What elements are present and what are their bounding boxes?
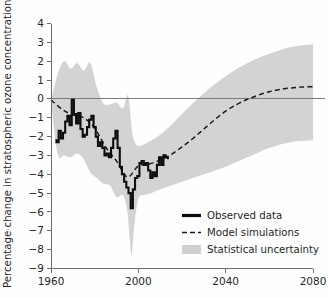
uncertainty-band (51, 44, 313, 255)
y-tick-label: −4 (29, 168, 45, 180)
ozone-line-chart: Percentage change in stratospheric ozone… (0, 0, 328, 298)
y-tick-label: −5 (29, 187, 44, 199)
y-tick-label: −2 (29, 130, 44, 142)
chart-figure: Percentage change in stratospheric ozone… (0, 0, 328, 298)
y-tick-label: −3 (29, 149, 44, 161)
y-tick-label: −9 (29, 262, 44, 274)
x-tick-marks (51, 269, 313, 273)
y-tick-label: −6 (29, 206, 45, 218)
legend-swatch-uncertainty (182, 245, 201, 254)
y-tick-labels: 43210−1−2−3−4−5−6−7−8−9 (29, 17, 45, 274)
x-tick-label: 2000 (125, 275, 152, 287)
uncertainty-band-group (51, 44, 313, 255)
legend-label-uncertainty: Statistical uncertainty (207, 244, 319, 255)
x-tick-label: 1960 (38, 275, 65, 287)
chart-legend: Observed data Model simulations Statisti… (182, 210, 319, 255)
y-tick-label: 2 (37, 55, 44, 67)
y-tick-marks (47, 24, 51, 269)
x-tick-labels: 1960200020402080 (38, 275, 327, 287)
y-tick-label: 4 (37, 17, 44, 29)
legend-label-model: Model simulations (207, 227, 299, 238)
x-tick-label: 2040 (212, 275, 239, 287)
x-tick-label: 2080 (300, 275, 327, 287)
legend-label-observed: Observed data (207, 210, 282, 221)
y-tick-label: −8 (29, 243, 44, 255)
y-tick-label: 3 (37, 36, 44, 48)
y-tick-label: −1 (29, 111, 44, 123)
y-axis-label: Percentage change in stratospheric ozone… (2, 0, 13, 288)
y-tick-label: −7 (29, 224, 44, 236)
y-tick-label: 1 (37, 74, 44, 86)
y-tick-label: 0 (37, 92, 44, 104)
